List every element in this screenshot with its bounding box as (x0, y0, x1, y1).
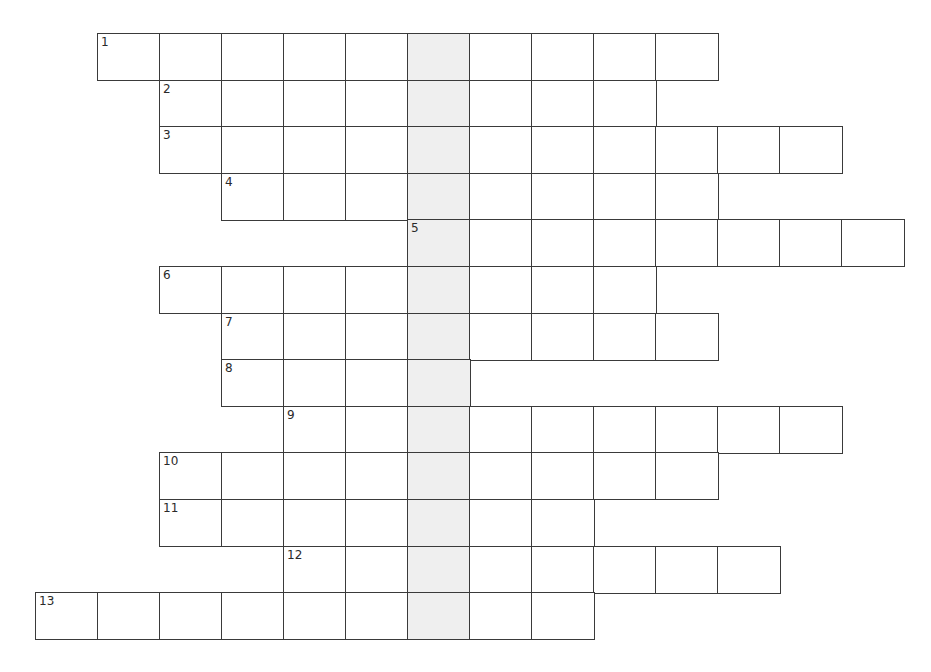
crossword-cell[interactable] (531, 592, 595, 640)
crossword-cell[interactable] (717, 546, 781, 594)
crossword-cell[interactable] (221, 592, 285, 640)
crossword-cell[interactable] (531, 266, 595, 314)
crossword-cell[interactable] (469, 173, 533, 221)
crossword-cell[interactable] (345, 33, 409, 81)
crossword-cell[interactable] (345, 452, 409, 500)
crossword-cell-highlighted[interactable] (407, 592, 471, 640)
crossword-cell[interactable] (531, 452, 595, 500)
crossword-cell-highlighted[interactable] (407, 546, 471, 594)
crossword-cell[interactable] (593, 313, 657, 361)
crossword-cell[interactable] (655, 126, 719, 174)
crossword-cell[interactable] (531, 173, 595, 221)
crossword-cell[interactable] (345, 126, 409, 174)
crossword-cell[interactable] (283, 126, 347, 174)
crossword-cell[interactable]: 7 (221, 313, 285, 361)
crossword-cell[interactable] (779, 126, 843, 174)
crossword-cell[interactable] (469, 33, 533, 81)
crossword-cell[interactable] (469, 313, 533, 361)
crossword-cell[interactable] (655, 173, 719, 221)
crossword-cell[interactable] (655, 219, 719, 267)
crossword-cell[interactable] (593, 266, 657, 314)
crossword-cell[interactable] (593, 80, 657, 128)
crossword-cell[interactable] (531, 546, 595, 594)
crossword-cell[interactable]: 3 (159, 126, 223, 174)
crossword-cell-highlighted[interactable]: 5 (407, 219, 471, 267)
crossword-cell[interactable] (345, 359, 409, 407)
crossword-cell-highlighted[interactable] (407, 126, 471, 174)
crossword-cell[interactable] (159, 592, 223, 640)
crossword-cell[interactable] (841, 219, 905, 267)
crossword-cell[interactable] (717, 219, 781, 267)
crossword-cell[interactable] (283, 359, 347, 407)
crossword-cell-highlighted[interactable] (407, 33, 471, 81)
crossword-cell[interactable] (283, 266, 347, 314)
crossword-cell[interactable]: 10 (159, 452, 223, 500)
crossword-cell[interactable] (593, 219, 657, 267)
crossword-cell[interactable] (655, 546, 719, 594)
crossword-cell[interactable] (593, 546, 657, 594)
crossword-cell[interactable] (221, 80, 285, 128)
crossword-cell-highlighted[interactable] (407, 173, 471, 221)
crossword-cell[interactable] (655, 33, 719, 81)
crossword-cell[interactable] (221, 452, 285, 500)
crossword-cell[interactable] (283, 80, 347, 128)
crossword-cell[interactable] (345, 592, 409, 640)
crossword-cell[interactable] (345, 80, 409, 128)
crossword-cell-highlighted[interactable] (407, 499, 471, 547)
crossword-cell[interactable]: 4 (221, 173, 285, 221)
crossword-cell[interactable] (221, 33, 285, 81)
crossword-cell-highlighted[interactable] (407, 266, 471, 314)
crossword-cell[interactable] (221, 126, 285, 174)
crossword-cell[interactable] (345, 313, 409, 361)
crossword-cell[interactable] (655, 452, 719, 500)
crossword-cell[interactable] (531, 219, 595, 267)
crossword-cell[interactable] (345, 499, 409, 547)
crossword-cell[interactable] (593, 406, 657, 454)
crossword-cell[interactable] (469, 266, 533, 314)
crossword-cell-highlighted[interactable] (407, 313, 471, 361)
crossword-cell[interactable] (469, 592, 533, 640)
crossword-cell[interactable] (717, 126, 781, 174)
crossword-cell[interactable] (593, 126, 657, 174)
crossword-cell[interactable] (469, 219, 533, 267)
crossword-cell[interactable] (469, 499, 533, 547)
crossword-cell[interactable] (283, 33, 347, 81)
crossword-cell[interactable] (469, 546, 533, 594)
crossword-cell[interactable] (283, 452, 347, 500)
crossword-cell[interactable] (345, 266, 409, 314)
crossword-cell[interactable] (531, 126, 595, 174)
crossword-cell[interactable] (531, 33, 595, 81)
crossword-cell[interactable] (779, 406, 843, 454)
crossword-cell[interactable]: 11 (159, 499, 223, 547)
crossword-cell[interactable] (97, 592, 161, 640)
crossword-cell[interactable] (593, 452, 657, 500)
crossword-cell[interactable] (779, 219, 843, 267)
crossword-cell[interactable]: 8 (221, 359, 285, 407)
crossword-cell[interactable] (531, 80, 595, 128)
crossword-cell[interactable]: 1 (97, 33, 161, 81)
crossword-cell[interactable] (593, 173, 657, 221)
crossword-cell-highlighted[interactable] (407, 80, 471, 128)
crossword-cell-highlighted[interactable] (407, 452, 471, 500)
crossword-cell[interactable] (345, 546, 409, 594)
crossword-cell[interactable] (345, 173, 409, 221)
crossword-cell[interactable] (531, 499, 595, 547)
crossword-cell-highlighted[interactable] (407, 359, 471, 407)
crossword-cell[interactable]: 12 (283, 546, 347, 594)
crossword-cell[interactable] (283, 313, 347, 361)
crossword-cell[interactable] (221, 499, 285, 547)
crossword-cell[interactable] (283, 173, 347, 221)
crossword-cell[interactable]: 6 (159, 266, 223, 314)
crossword-cell[interactable] (283, 592, 347, 640)
crossword-cell[interactable] (159, 33, 223, 81)
crossword-cell[interactable]: 9 (283, 406, 347, 454)
crossword-cell[interactable] (655, 313, 719, 361)
crossword-cell[interactable] (283, 499, 347, 547)
crossword-cell[interactable] (469, 406, 533, 454)
crossword-cell[interactable] (717, 406, 781, 454)
crossword-cell[interactable] (345, 406, 409, 454)
crossword-cell[interactable] (593, 33, 657, 81)
crossword-cell[interactable] (531, 406, 595, 454)
crossword-cell[interactable] (469, 126, 533, 174)
crossword-cell-highlighted[interactable] (407, 406, 471, 454)
